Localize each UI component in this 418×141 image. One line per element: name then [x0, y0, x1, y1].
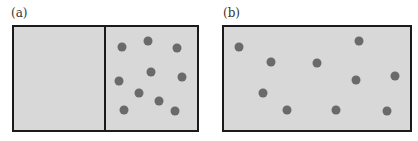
particle-dot	[144, 37, 153, 46]
particle-dot	[267, 58, 276, 67]
particle-dot	[120, 106, 129, 115]
particle-dot	[383, 107, 392, 116]
particle-dot	[173, 44, 182, 53]
particle-dot	[155, 97, 164, 106]
particle-dot	[147, 68, 156, 77]
particle-dot	[259, 89, 268, 98]
panel-label: (b)	[223, 6, 240, 20]
particle-dot	[332, 106, 341, 115]
particle-dot	[352, 76, 361, 85]
container-box	[222, 25, 412, 132]
particle-dot	[235, 43, 244, 52]
particle-dot	[283, 106, 292, 115]
partition-wall	[104, 25, 106, 132]
particle-dot	[313, 59, 322, 68]
particle-dot	[118, 43, 127, 52]
particle-dot	[391, 72, 400, 81]
particle-dot	[178, 73, 187, 82]
particle-dot	[171, 107, 180, 116]
panel-label: (a)	[11, 6, 28, 20]
particle-dot	[135, 89, 144, 98]
particle-dot	[115, 77, 124, 86]
particle-dot	[355, 37, 364, 46]
